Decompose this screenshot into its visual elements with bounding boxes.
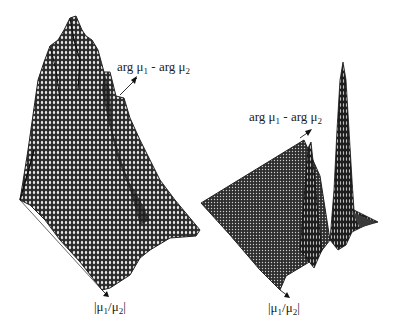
left-front-axis-label: |μ1/μ2| xyxy=(94,300,126,316)
right-front-axis-arrow xyxy=(284,292,290,298)
right-front-axis-label: |μ1/μ2| xyxy=(268,301,300,317)
left-back-axis-label: arg μ1 - arg μ2 xyxy=(117,60,190,76)
right-surface-plot xyxy=(201,62,378,298)
figure: arg μ1 - arg μ2 |μ1/μ2| arg μ1 - arg μ2 … xyxy=(0,0,394,332)
surface-plots xyxy=(0,0,394,332)
right-back-axis-label: arg μ1 - arg μ2 xyxy=(249,110,322,126)
